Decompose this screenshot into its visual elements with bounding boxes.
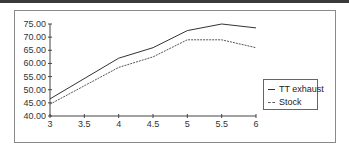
series-line-tt-exhaust [50, 24, 256, 99]
x-tick-label: 5.5 [215, 119, 228, 129]
series-line-stock [50, 40, 256, 104]
x-tick-label: 4 [116, 119, 121, 129]
y-tick-label: 70.00 [23, 32, 46, 42]
x-tick-label: 3.5 [78, 119, 91, 129]
chart-legend: TT exhaust Stock [263, 79, 318, 110]
legend-swatch-dashed-icon [268, 102, 275, 103]
legend-label: TT exhaust [279, 84, 324, 94]
legend-swatch-solid-icon [268, 89, 275, 90]
x-tick-label: 6 [253, 119, 258, 129]
x-tick-label: 5 [185, 119, 190, 129]
y-tick-label: 75.00 [23, 19, 46, 29]
legend-label: Stock [279, 97, 302, 107]
legend-item-tt-exhaust: TT exhaust [268, 83, 324, 95]
y-tick-label: 45.00 [23, 98, 46, 108]
x-tick-label: 4.5 [147, 119, 160, 129]
chart-series [50, 24, 256, 104]
y-tick-label: 55.00 [23, 72, 46, 82]
legend-item-stock: Stock [268, 96, 302, 108]
line-chart: 40.0045.0050.0055.0060.0065.0070.0075.00… [0, 0, 349, 147]
x-tick-label: 3 [47, 119, 52, 129]
chart-axes: 40.0045.0050.0055.0060.0065.0070.0075.00… [23, 19, 258, 129]
y-tick-label: 50.00 [23, 85, 46, 95]
y-tick-label: 65.00 [23, 45, 46, 55]
y-tick-label: 60.00 [23, 58, 46, 68]
y-tick-label: 40.00 [23, 111, 46, 121]
